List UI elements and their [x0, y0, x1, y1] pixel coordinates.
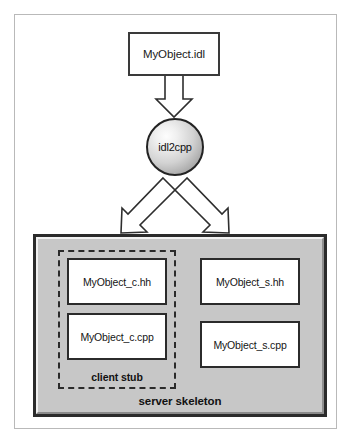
server-skeleton-panel: client stub MyObject_c.hh MyObject_c.cpp…	[33, 234, 327, 417]
idl-compiler-node: idl2cpp	[146, 118, 204, 176]
server-skeleton-label: server skeleton	[36, 395, 324, 407]
idl-source-label: MyObject.idl	[143, 48, 205, 60]
file-box-myobject-c-hh: MyObject_c.hh	[67, 258, 167, 305]
file-box-myobject-c-cpp: MyObject_c.cpp	[67, 313, 167, 360]
idl-source-box: MyObject.idl	[128, 32, 220, 76]
file-label-myobject-c-cpp: MyObject_c.cpp	[80, 331, 153, 343]
file-box-myobject-s-cpp: MyObject_s.cpp	[200, 321, 300, 368]
file-box-myobject-s-hh: MyObject_s.hh	[200, 258, 300, 305]
client-stub-label: client stub	[60, 371, 174, 383]
file-label-myobject-c-hh: MyObject_c.hh	[83, 276, 151, 288]
figure-container: MyObject.idl idl2cpp client stub MyObjec…	[0, 0, 353, 445]
file-label-myobject-s-cpp: MyObject_s.cpp	[213, 339, 286, 351]
file-label-myobject-s-hh: MyObject_s.hh	[216, 276, 284, 288]
idl-compiler-label: idl2cpp	[158, 141, 191, 153]
